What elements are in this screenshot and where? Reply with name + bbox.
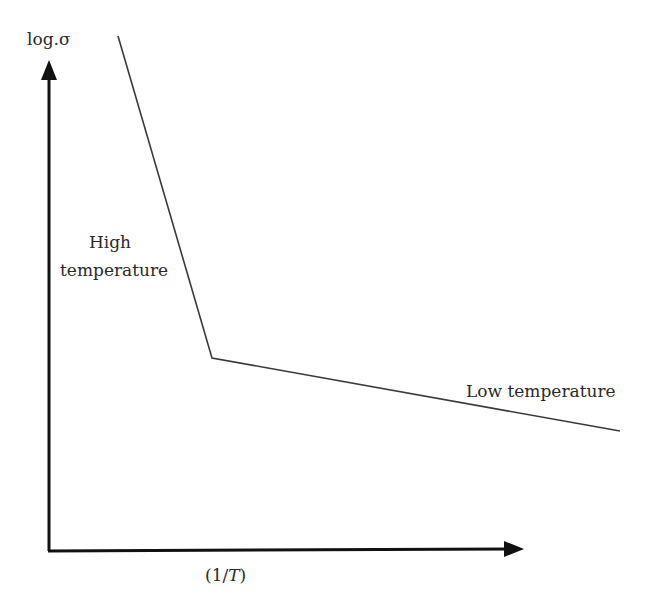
x-axis-label: (1/T): [205, 565, 246, 585]
high-temperature-label: High temperature: [60, 228, 160, 284]
y-axis: [41, 60, 57, 551]
low-temperature-label: Low temperature: [466, 381, 616, 401]
y-axis-label: log.σ: [27, 29, 71, 49]
x-axis: [48, 541, 524, 557]
y-axis-arrowhead-icon: [41, 60, 57, 80]
x-label-suffix: ): [240, 565, 247, 585]
conductivity-curve: [118, 36, 620, 431]
x-label-variable: T: [228, 565, 239, 585]
x-label-prefix: (1/: [205, 565, 228, 585]
high-temperature-line1: High: [60, 228, 160, 256]
x-axis-arrowhead-icon: [504, 541, 524, 557]
high-temperature-line2: temperature: [60, 256, 160, 284]
conductivity-diagram: [0, 0, 654, 611]
